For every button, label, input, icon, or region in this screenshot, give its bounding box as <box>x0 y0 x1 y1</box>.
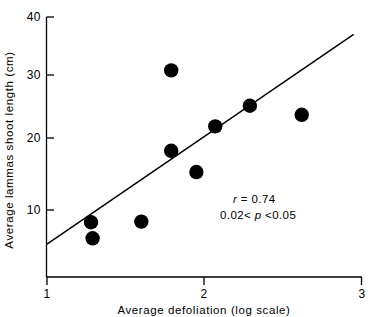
y-axis-ticks <box>47 17 55 210</box>
data-point <box>164 144 178 158</box>
data-point <box>84 215 98 229</box>
x-axis-title: Average defoliation (log scale) <box>117 304 290 316</box>
regression-line <box>47 34 354 244</box>
correlation-annotation: r = 0.74 <box>233 193 276 205</box>
data-point <box>295 108 309 122</box>
x-tick-label-2: 2 <box>200 287 207 301</box>
data-point <box>243 99 257 113</box>
x-tick-label-1: 1 <box>43 287 50 301</box>
y-axis-title: Average lammas shoot length (cm) <box>3 51 15 248</box>
x-axis-ticks <box>47 277 362 285</box>
p-upper-bound: <0.05 <box>262 209 297 221</box>
y-tick-label-10: 10 <box>27 203 41 217</box>
data-point <box>189 165 203 179</box>
p-value-annotation: 0.02< p <0.05 <box>220 209 296 221</box>
scatter-plot-figure: 40 30 20 10 1 2 3 Average defoliation (l… <box>0 0 377 317</box>
data-point <box>134 214 148 228</box>
data-point <box>164 63 178 77</box>
r-value: = 0.74 <box>237 193 275 205</box>
x-tick-label-3: 3 <box>358 287 365 301</box>
p-symbol: p <box>254 209 262 221</box>
y-tick-label-40: 40 <box>27 10 41 24</box>
data-point <box>85 231 99 245</box>
y-tick-label-30: 30 <box>27 68 41 82</box>
y-tick-label-20: 20 <box>27 131 41 145</box>
data-point <box>208 119 222 133</box>
stats-annotation: r = 0.74 0.02< p <0.05 <box>220 193 296 221</box>
p-lower-bound: 0.02< <box>220 209 255 221</box>
plot-canvas: 40 30 20 10 1 2 3 Average defoliation (l… <box>0 0 377 317</box>
